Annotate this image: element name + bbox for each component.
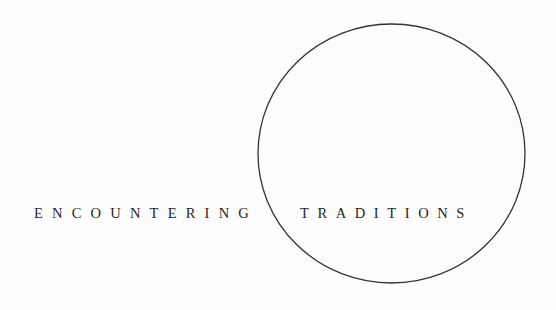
title-word-traditions: TRADITIONS: [300, 206, 473, 221]
cover-logo: ENCOUNTERING TRADITIONS: [0, 0, 556, 310]
circle-outline-icon: [0, 0, 556, 310]
title-word-encountering: ENCOUNTERING: [34, 206, 258, 221]
